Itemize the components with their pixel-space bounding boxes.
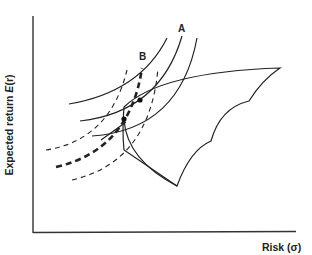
x-axis-label: Risk (σ) <box>262 241 301 253</box>
indifference-curve-a1 <box>69 38 167 104</box>
label-a: A <box>178 23 185 34</box>
label-b: B <box>139 51 146 62</box>
indifference-curve-a2 <box>80 36 182 121</box>
x-axis <box>33 232 296 233</box>
tangency-point-b <box>121 116 126 121</box>
y-axis-label-symbol: E <box>3 86 15 93</box>
indifference-curves-b <box>46 68 158 180</box>
y-axis-label: Expected return E(r) <box>2 60 16 190</box>
indifference-curve-b1 <box>46 70 127 150</box>
opportunity-set <box>123 68 280 186</box>
risk-return-diagram <box>0 0 312 255</box>
tangency-point-a <box>137 97 142 102</box>
y-axis-label-paren: (r) <box>3 75 15 86</box>
y-axis-label-text: Expected return <box>3 93 15 176</box>
opportunity-set-left-edge <box>124 120 177 186</box>
indifference-curves-a <box>69 36 197 136</box>
